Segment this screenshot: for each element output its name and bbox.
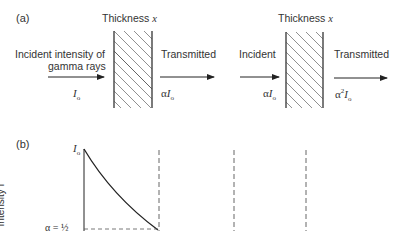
y-top-label: Io <box>73 143 80 157</box>
incident-1-line1: Incident intensity of <box>15 49 105 60</box>
transmitted-2-sub: o <box>348 95 352 103</box>
transmitted-1-label: Transmitted <box>161 49 216 60</box>
slab-1 <box>84 21 194 151</box>
slab-2-title: Thickness x <box>278 13 333 25</box>
slab-1-title-text: Thickness <box>102 12 152 24</box>
transmitted-1-sub: o <box>170 94 174 102</box>
decay-curve <box>84 149 158 230</box>
incident-1-line2: gamma rays <box>48 61 106 72</box>
transmitted-2-label: Transmitted <box>334 49 389 60</box>
slab-2 <box>266 22 376 162</box>
incident-1-sub: o <box>77 94 81 102</box>
slab-1-title: Thickness x <box>102 13 157 25</box>
panel-a-label: (a) <box>16 13 29 24</box>
slab-1-title-var: x <box>152 13 157 24</box>
incident-1-value: Io <box>73 88 80 102</box>
incident-2-sub: o <box>272 94 276 102</box>
y-top-sub: o <box>77 149 81 157</box>
transmitted-1-value: αIo <box>161 88 174 102</box>
transmitted-2-value: α2Io <box>335 88 351 103</box>
alpha-label: α = ½ <box>45 223 68 231</box>
slab-2-title-text: Thickness <box>278 12 328 24</box>
panel-b-label: (b) <box>16 139 29 150</box>
incident-2-label: Incident <box>239 49 276 60</box>
y-axis-label: Intensity I <box>0 184 6 227</box>
incident-2-value: αIo <box>263 88 276 102</box>
diagram-graphics <box>0 0 399 231</box>
slab-2-title-var: x <box>328 13 333 24</box>
